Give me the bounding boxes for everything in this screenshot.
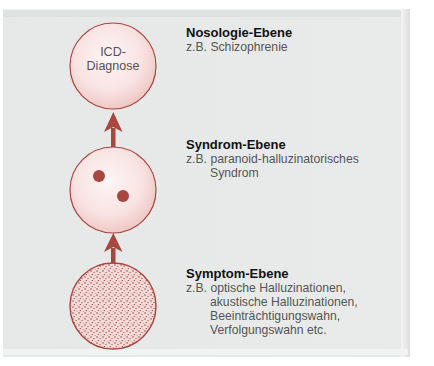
- icd-label-line: ICD-: [70, 45, 156, 59]
- example-line: Syndrom: [186, 166, 359, 180]
- syndrome-level-text: Syndrom-Ebene z.B. paranoid-halluzinator…: [186, 138, 359, 180]
- example-line: Beeinträchtigungswahn,: [186, 309, 358, 323]
- icd-diagnosis-label: ICD- Diagnose: [70, 45, 156, 73]
- example-line: Schizophrenie: [210, 40, 287, 54]
- level-title: Symptom-Ebene: [186, 267, 358, 281]
- example-line: akustische Halluzinationen,: [186, 295, 358, 309]
- nosology-level-text: Nosologie-Ebene z.B. Schizophrenie: [186, 26, 292, 54]
- example-line: paranoid-halluzinatorisches: [210, 152, 358, 166]
- example-prefix: z.B.: [186, 281, 210, 295]
- example-prefix: z.B.: [186, 40, 210, 54]
- symptom-level-text: Symptom-Ebene z.B. optische Halluzinatio…: [186, 267, 358, 337]
- syndrome-dot: [93, 170, 105, 182]
- example-line: optische Halluzinationen,: [210, 281, 346, 295]
- level-title: Syndrom-Ebene: [186, 138, 359, 152]
- syndrome-circle: [70, 147, 156, 233]
- icd-label-line: Diagnose: [70, 59, 156, 73]
- example-prefix: z.B.: [186, 152, 210, 166]
- symptom-circle: [70, 263, 156, 349]
- arrow-up-icon: [104, 233, 123, 264]
- example-line: Verfolgungswahn etc.: [186, 323, 358, 337]
- syndrome-dot: [117, 190, 129, 202]
- level-title: Nosologie-Ebene: [186, 26, 292, 40]
